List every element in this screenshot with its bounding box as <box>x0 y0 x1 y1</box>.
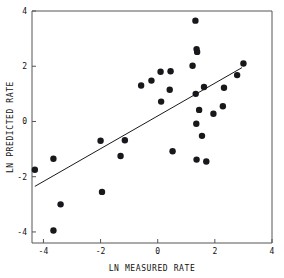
x-tick-label-4: 4 <box>270 247 275 256</box>
data-point <box>193 120 199 126</box>
x-axis-title: LN MEASURED RATE <box>109 264 196 273</box>
data-point <box>148 77 154 83</box>
data-point <box>210 111 216 117</box>
figure-background <box>0 0 284 278</box>
data-point <box>240 60 246 66</box>
data-point <box>193 156 199 162</box>
x-tick-label-3: 2 <box>212 247 217 256</box>
data-point <box>97 138 103 144</box>
data-point <box>157 69 163 75</box>
data-point <box>167 68 173 74</box>
data-point <box>192 17 198 23</box>
data-point <box>169 148 175 154</box>
data-point <box>99 189 105 195</box>
data-point <box>158 98 164 104</box>
data-point <box>203 158 209 164</box>
x-tick-label-0: -4 <box>39 247 49 256</box>
data-point <box>201 84 207 90</box>
plot-canvas: -4-2024 -4-2024 LN MEASURED RATE LN PRED… <box>0 0 284 278</box>
y-axis-title: LN PREDICTED RATE <box>6 81 15 173</box>
data-point <box>189 62 195 68</box>
y-tick-label-4: 4 <box>22 7 27 16</box>
data-point <box>234 72 240 78</box>
data-point <box>220 103 226 109</box>
data-point <box>50 227 56 233</box>
data-point <box>32 167 38 173</box>
data-point <box>194 49 200 55</box>
data-point <box>167 87 173 93</box>
x-tick-label-2: 0 <box>155 247 160 256</box>
data-point <box>221 85 227 91</box>
data-point <box>196 107 202 113</box>
data-point <box>138 82 144 88</box>
data-point <box>57 201 63 207</box>
data-point <box>50 156 56 162</box>
y-tick-label-2: 0 <box>22 117 27 126</box>
data-point <box>193 91 199 97</box>
y-tick-label-3: 2 <box>22 62 27 71</box>
x-tick-label-1: -2 <box>96 247 106 256</box>
data-point <box>199 133 205 139</box>
data-point <box>122 137 128 143</box>
scatter-plot-figure: -4-2024 -4-2024 LN MEASURED RATE LN PRED… <box>0 0 284 278</box>
y-tick-label-1: -2 <box>17 173 27 182</box>
y-tick-label-0: -4 <box>17 228 27 237</box>
data-point <box>117 153 123 159</box>
